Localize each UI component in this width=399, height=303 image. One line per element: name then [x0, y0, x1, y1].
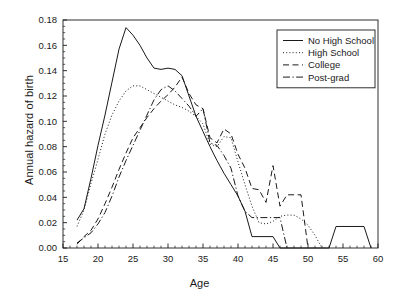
x-tick-label: 55	[338, 253, 349, 264]
x-tick-label: 40	[233, 253, 244, 264]
x-tick-label: 45	[268, 253, 279, 264]
legend-label: High School	[308, 47, 359, 58]
series-line-post-grad	[77, 86, 287, 248]
y-tick-label: 0.18	[39, 14, 58, 25]
x-tick-label: 50	[303, 253, 314, 264]
y-tick-label: 0.08	[39, 141, 58, 152]
y-tick-label: 0.14	[39, 65, 58, 76]
y-tick-label: 0.02	[39, 217, 58, 228]
legend-label: College	[308, 59, 340, 70]
x-tick-label: 20	[93, 253, 104, 264]
y-tick-label: 0.00	[39, 242, 58, 253]
y-tick-label: 0.10	[39, 116, 58, 127]
series-line-college	[77, 77, 308, 248]
legend-label: No High School	[308, 35, 374, 46]
y-tick-label: 0.04	[39, 192, 58, 203]
y-tick-label: 0.12	[39, 90, 58, 101]
x-axis-ticks: 15202530354045505560	[58, 244, 384, 265]
plot-canvas: 0.000.020.040.060.080.100.120.140.160.18…	[0, 0, 399, 303]
x-tick-label: 25	[128, 253, 139, 264]
chart-legend: No High SchoolHigh SchoolCollegePost-gra…	[277, 30, 375, 88]
y-tick-label: 0.06	[39, 166, 58, 177]
series-line-high-school	[77, 86, 322, 248]
x-tick-label: 30	[163, 253, 174, 264]
x-tick-label: 15	[58, 253, 69, 264]
chart-figure: Annual hazard of birth Age 0.000.020.040…	[0, 0, 399, 303]
legend-label: Post-grad	[308, 72, 349, 83]
y-tick-label: 0.16	[39, 40, 58, 51]
x-tick-label: 60	[373, 253, 384, 264]
x-tick-label: 35	[198, 253, 209, 264]
